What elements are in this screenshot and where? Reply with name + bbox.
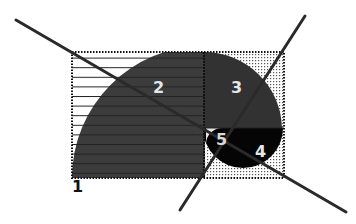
diagram-canvas: 1 2 3 4 5 [0,0,356,224]
label-3: 3 [231,78,242,97]
label-4: 4 [255,142,266,161]
square-region-3 [204,52,284,128]
label-2: 2 [153,78,164,97]
label-1: 1 [72,177,83,196]
diagonal-line-1 [16,20,346,212]
label-5: 5 [216,130,227,149]
